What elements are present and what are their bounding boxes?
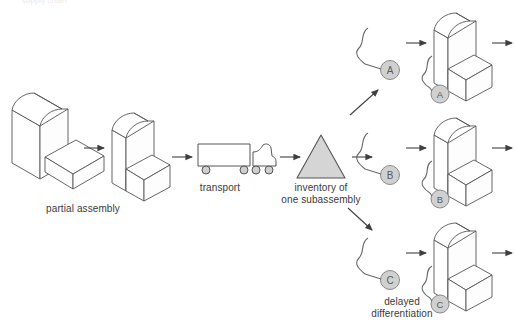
partial-assembly-chair <box>112 113 170 201</box>
variant-a-row <box>357 13 512 103</box>
arrow-branch-a <box>350 90 378 115</box>
cord-b-icon <box>357 133 368 169</box>
cord-c-icon <box>357 238 368 274</box>
arrow-branch-c <box>348 208 372 230</box>
cord-a-chair-icon <box>422 56 432 88</box>
label-transport: transport <box>175 182 265 194</box>
cord-a-icon <box>357 28 368 64</box>
label-delayed-differentiation: delayed differentiation <box>348 296 456 320</box>
tag-letter-a-chair: A <box>437 89 444 100</box>
tag-letter-b-chair: B <box>437 194 443 205</box>
inventory-triangle-icon <box>297 135 345 178</box>
cord-c-chair-icon <box>422 266 432 298</box>
diagram-canvas: supply chain <box>0 0 515 325</box>
diagram-svg: A A B B C C <box>0 0 515 325</box>
label-partial-assembly: partial assembly <box>18 203 148 215</box>
cord-b-chair-icon <box>422 161 432 193</box>
tag-letter-a: A <box>387 65 394 76</box>
tag-letter-c: C <box>386 275 393 286</box>
truck-icon <box>198 144 276 174</box>
label-inventory: inventory of one subassembly <box>262 182 380 206</box>
tag-letter-b: B <box>387 170 394 181</box>
